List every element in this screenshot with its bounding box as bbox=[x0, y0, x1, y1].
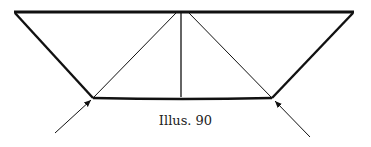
right-inner-brace bbox=[189, 13, 272, 98]
bottom-chord bbox=[93, 98, 272, 99]
figure-caption: Illus. 90 bbox=[0, 113, 371, 128]
right-outer-diagonal bbox=[272, 13, 353, 98]
left-outer-diagonal bbox=[15, 13, 93, 98]
left-inner-brace bbox=[93, 13, 176, 98]
